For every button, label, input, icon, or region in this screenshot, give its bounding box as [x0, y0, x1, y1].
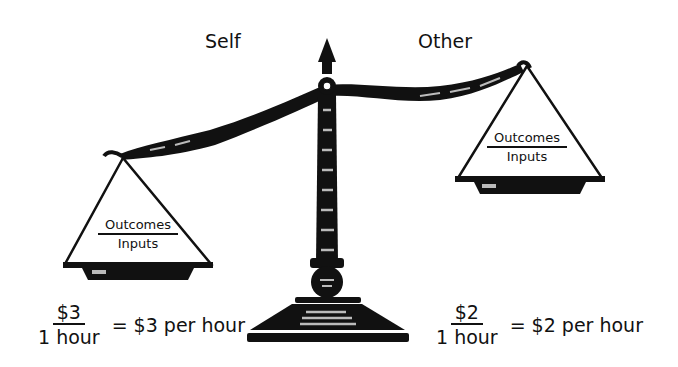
left-pan-ratio: Outcomes Inputs — [98, 217, 178, 251]
self-time: 1 hour — [34, 325, 104, 349]
left-hook — [104, 152, 122, 156]
left-pan-inputs: Inputs — [98, 235, 178, 251]
post-knob — [311, 266, 343, 298]
other-rate-result: = $2 per hour — [510, 314, 643, 336]
other-label: Other — [418, 30, 472, 52]
post-finial — [318, 38, 336, 62]
self-rate-result: = $3 per hour — [112, 314, 245, 336]
right-pan-ratio: Outcomes Inputs — [487, 130, 567, 164]
self-label: Self — [205, 30, 241, 52]
other-rate-fraction: $2 1 hour — [432, 301, 502, 349]
self-pay: $3 — [53, 301, 85, 325]
post-column — [316, 95, 338, 262]
right-pan-outcomes: Outcomes — [487, 130, 567, 148]
other-pay: $2 — [451, 301, 483, 325]
self-rate-fraction: $3 1 hour — [34, 301, 104, 349]
other-time: 1 hour — [432, 325, 502, 349]
other-rate-equation: $2 1 hour = $2 per hour — [432, 301, 643, 349]
right-pan-inputs: Inputs — [487, 148, 567, 164]
self-rate-equation: $3 1 hour = $3 per hour — [34, 301, 245, 349]
left-pan-outcomes: Outcomes — [98, 217, 178, 235]
